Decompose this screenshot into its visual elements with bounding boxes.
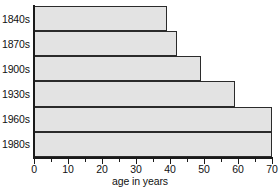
bar-1960s: [34, 107, 272, 132]
x-axis-tick-label: 0: [31, 163, 37, 175]
x-axis-tick-minor: [187, 159, 188, 162]
y-axis-tick-label: 1840s: [2, 13, 30, 25]
x-axis-tick-label: 10: [62, 163, 73, 175]
x-axis-tick-label: 30: [130, 163, 141, 175]
x-axis-title: age in years: [0, 175, 280, 187]
y-axis-tick-label: 1930s: [2, 88, 30, 100]
y-axis-tick-2: 1900s: [0, 56, 30, 81]
y-axis-tick-label: 1870s: [2, 38, 30, 50]
bar-row: [34, 6, 272, 31]
bar-chart: 1840s 1870s 1900s 1930s 1960s 1980s: [0, 0, 280, 191]
x-axis-tick-label: 40: [164, 163, 175, 175]
y-axis-category-labels: 1840s 1870s 1900s 1930s 1960s 1980s: [0, 6, 30, 157]
x-axis-tick-label: 20: [96, 163, 107, 175]
bar-1840s: [34, 6, 167, 31]
y-axis-tick-1: 1870s: [0, 31, 30, 56]
x-axis-tick-label: 60: [232, 163, 243, 175]
y-axis-tick-0: 1840s: [0, 6, 30, 31]
x-axis-tick-label: 70: [266, 163, 277, 175]
x-axis-tick-minor: [51, 159, 52, 162]
y-axis-tick-label: 1960s: [2, 113, 30, 125]
bar-1870s: [34, 31, 177, 56]
bar-1980s: [34, 132, 272, 157]
bar-row: [34, 132, 272, 157]
bar-row: [34, 31, 272, 56]
bar-row: [34, 81, 272, 106]
x-axis-tick-minor: [85, 159, 86, 162]
y-axis-line: [33, 5, 35, 159]
y-axis-tick-5: 1980s: [0, 132, 30, 157]
x-axis-tick-minor: [119, 159, 120, 162]
y-axis-tick-3: 1930s: [0, 81, 30, 106]
bar-1900s: [34, 56, 201, 81]
bar-row: [34, 56, 272, 81]
y-axis-tick-label: 1900s: [2, 63, 30, 75]
x-axis-tick-minor: [153, 159, 154, 162]
y-axis-tick-label: 1980s: [2, 138, 30, 150]
bar-row: [34, 107, 272, 132]
plot-area: [34, 6, 272, 157]
x-axis-tick-minor: [255, 159, 256, 162]
x-axis-tick-label: 50: [198, 163, 209, 175]
bar-1930s: [34, 81, 235, 106]
x-axis-tick-minor: [221, 159, 222, 162]
y-axis-tick-4: 1960s: [0, 107, 30, 132]
